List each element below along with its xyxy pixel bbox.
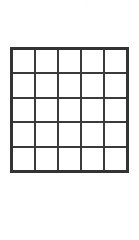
grid-cell [13,123,34,145]
grid-cell [13,50,34,72]
grid-cell [59,148,80,170]
grid-cell [105,74,126,96]
grid-cell [36,148,57,170]
grid-cell [36,123,57,145]
grid-cell [59,50,80,72]
grid-cell [36,99,57,121]
grid-cell [105,50,126,72]
grid-cell [36,50,57,72]
grid-cell [105,99,126,121]
grid-cell [82,123,103,145]
grid-cell [13,74,34,96]
grid-cell [13,99,34,121]
grid-cell [82,148,103,170]
grid-table [10,47,129,173]
grid-cell [82,99,103,121]
grid-cell [82,50,103,72]
grid-cell [36,74,57,96]
grid-cell [13,148,34,170]
grid-cell [59,123,80,145]
grid-cell [59,74,80,96]
grid-cell [59,99,80,121]
grid-cell [82,74,103,96]
grid-cell [105,123,126,145]
grid-cell [105,148,126,170]
